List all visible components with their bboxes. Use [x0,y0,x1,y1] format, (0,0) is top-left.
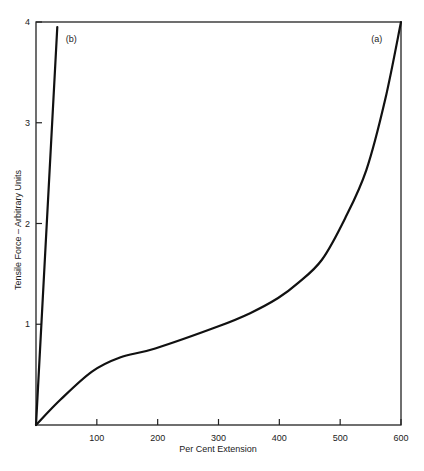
x-tick-label: 100 [89,433,104,443]
x-axis-ticks: 100200300400500600 [89,419,408,443]
y-axis-ticks: 1234 [25,17,42,329]
y-tick-label: 1 [25,319,30,329]
series-labels: (a)(b) [66,34,382,44]
y-tick-label: 2 [25,219,30,229]
y-tick-label: 4 [25,17,30,27]
series-line-b [36,27,57,425]
x-tick-label: 500 [333,433,348,443]
plot-border [36,22,401,425]
chart: 100200300400500600 1234 (a)(b) Per Cent … [0,0,424,471]
series-line-a [36,22,401,425]
x-axis-label: Per Cent Extension [179,444,257,454]
x-tick-label: 200 [150,433,165,443]
plot-frame [36,22,401,425]
series-label: (a) [371,34,382,44]
x-tick-label: 300 [211,433,226,443]
series-label: (b) [66,34,77,44]
y-axis-label: Tensile Force – Arbitrary Units [13,169,23,290]
series-lines [36,22,401,425]
x-tick-label: 600 [393,433,408,443]
x-tick-label: 400 [272,433,287,443]
y-tick-label: 3 [25,118,30,128]
